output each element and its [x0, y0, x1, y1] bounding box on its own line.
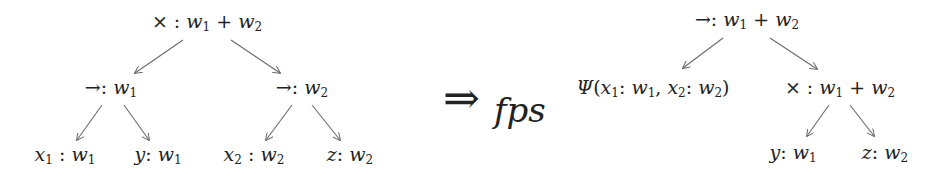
- edge-right-to-z: [312, 105, 340, 140]
- edge-times-to-y: [807, 105, 829, 136]
- right-times-node: × : w1 + w2: [785, 76, 895, 104]
- edge-times-to-z: [850, 105, 874, 136]
- edge-left-to-x1: [77, 105, 102, 140]
- edge-right-to-x2: [266, 105, 292, 140]
- fps-subscript: fps: [494, 90, 546, 130]
- psi-node: Ψ(x1: w1, x2: w2): [576, 76, 729, 104]
- right-leaf-y-w1: y: w1: [769, 141, 816, 169]
- left-arrow-node-w1: →: w1: [85, 76, 137, 104]
- leaf-z-w2: z: w2: [327, 143, 373, 171]
- leaf-y-w1: y: w1: [134, 143, 181, 171]
- leaf-x1-w1: x1 : w1: [35, 143, 96, 171]
- edge-left-to-y: [124, 105, 149, 140]
- right-root-node: →: w1 + w2: [695, 8, 799, 36]
- edge-root-to-left: [135, 40, 183, 73]
- right-leaf-z-w2: z: w2: [862, 141, 908, 169]
- leaf-x2-w2: x2 : w2: [224, 143, 285, 171]
- left-arrow-node-w2: →: w2: [276, 76, 328, 104]
- implies-arrow: ⇒: [443, 76, 480, 120]
- edge-rroot-to-times: [770, 38, 817, 69]
- edge-root-to-right: [231, 40, 280, 73]
- edge-rroot-to-psi: [683, 38, 723, 68]
- left-root-node: × : w1 + w2: [152, 10, 262, 38]
